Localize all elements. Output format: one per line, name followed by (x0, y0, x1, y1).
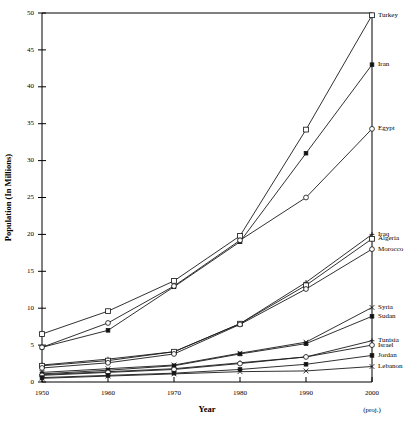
series-label-iran: Iran (378, 60, 390, 68)
marker-israel (304, 355, 309, 360)
marker-turkey (370, 13, 375, 18)
series-line-sudan (42, 316, 372, 374)
chart-canvas: 0510152025303540455019501960197019801990… (0, 0, 411, 433)
x-tick-label: 1950 (35, 389, 50, 397)
y-tick-label: 45 (27, 46, 35, 54)
marker-egypt (304, 195, 309, 200)
marker-morocco (238, 322, 243, 327)
population-line-chart: 0510152025303540455019501960197019801990… (0, 0, 411, 433)
marker-turkey (40, 332, 45, 337)
marker-sudan (370, 315, 374, 319)
marker-egypt (40, 345, 45, 350)
series-label-sudan: Sudan (378, 312, 396, 320)
marker-morocco (40, 366, 45, 371)
y-tick-label: 50 (27, 9, 35, 17)
marker-jordan (304, 362, 308, 366)
y-tick-label: 20 (27, 230, 35, 238)
marker-turkey (172, 278, 177, 283)
x-axis-title: Year (199, 404, 216, 414)
series-line-iraq (42, 234, 372, 365)
marker-morocco (106, 360, 111, 365)
x-tick-label: 1990 (299, 389, 314, 397)
x-tick-label: 1960 (101, 389, 116, 397)
marker-iran (304, 151, 308, 155)
y-tick-label: 15 (27, 267, 35, 275)
marker-iran (106, 329, 110, 333)
marker-sudan (304, 342, 308, 346)
x-tick-label: 1970 (167, 389, 182, 397)
marker-israel (370, 343, 375, 348)
y-axis-title: Population (In Millions) (3, 154, 13, 242)
y-tick-label: 30 (27, 156, 35, 164)
y-tick-label: 10 (27, 304, 35, 312)
marker-turkey (106, 309, 111, 314)
x-tick-label: 1980 (233, 389, 248, 397)
series-label-turkey: Turkey (378, 11, 398, 19)
y-tick-label: 40 (27, 82, 35, 90)
series-label-israel: Israel (378, 341, 394, 349)
marker-egypt (370, 126, 375, 131)
series-line-egypt (42, 129, 372, 347)
y-tick-label: 35 (27, 119, 35, 127)
y-tick-label: 0 (31, 378, 35, 386)
marker-egypt (238, 238, 243, 243)
series-label-lebanon: Lebanon (378, 362, 403, 370)
series-label-morocco: Morocco (378, 245, 404, 253)
marker-morocco (304, 287, 309, 292)
marker-turkey (304, 127, 309, 132)
series-label-algeria: Algeria (378, 234, 400, 242)
series-label-egypt: Egypt (378, 124, 395, 132)
series-line-iran (42, 65, 372, 348)
marker-jordan (370, 354, 374, 358)
marker-iran (370, 63, 374, 67)
x-tick-label: 2000 (365, 389, 380, 397)
y-tick-label: 5 (31, 341, 35, 349)
series-line-morocco (42, 249, 372, 368)
marker-algeria (370, 236, 375, 241)
marker-morocco (370, 247, 375, 252)
marker-egypt (106, 321, 111, 326)
series-label-jordan: Jordan (378, 351, 397, 359)
marker-morocco (172, 352, 177, 357)
marker-israel (238, 361, 243, 366)
series-label-syria: Syria (378, 303, 394, 311)
projection-note: (proj.) (363, 406, 381, 414)
marker-egypt (172, 284, 177, 289)
marker-sudan (238, 352, 242, 356)
series-line-turkey (42, 15, 372, 334)
y-tick-label: 25 (27, 193, 35, 201)
